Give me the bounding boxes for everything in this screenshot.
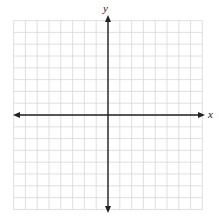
x-axis-left-arrow-icon: [13, 112, 20, 118]
x-axis-right-arrow-icon: [198, 112, 205, 118]
y-axis-up-arrow-icon: [105, 15, 111, 22]
coordinate-plane: [0, 0, 219, 220]
x-axis-label: x: [208, 109, 213, 120]
y-axis-label: y: [103, 3, 108, 14]
